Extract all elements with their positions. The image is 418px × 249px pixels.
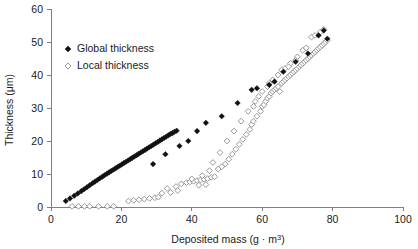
data-point-local [229,151,235,157]
y-tick-label: 30 [31,102,43,114]
data-point-local [224,138,230,144]
data-point-global [235,100,241,106]
data-point-local [243,132,249,138]
data-point-local [87,203,93,209]
scatter-plot: 0102030405060020406080100 Global thickne… [0,0,418,249]
data-point-local [96,203,102,209]
y-tick-label: 20 [31,135,43,147]
data-point-global [219,113,225,119]
x-tick-label: 20 [116,213,128,225]
y-axis-title: Thickness (μm) [3,74,15,146]
y-tick-label: 60 [31,3,43,15]
legend-label-global: Global thickness [77,42,154,54]
data-point-local [147,196,153,202]
data-point-global [163,151,169,157]
data-point-local [245,108,251,114]
x-tick-label: 60 [256,213,268,225]
data-point-local [231,128,237,134]
data-point-global [254,85,260,91]
data-point-global [177,143,183,149]
data-point-local [238,118,244,124]
data-point-global [185,138,191,144]
data-point-local [210,160,216,166]
x-tick-label: 80 [327,213,339,225]
data-point-local [254,113,260,119]
data-point-global [150,161,156,167]
legend: Global thicknessLocal thickness [65,42,154,71]
series-global-thickness-points [63,28,330,204]
data-point-global [194,128,200,134]
data-point-local [226,156,232,162]
y-tick-label: 50 [31,36,43,48]
data-point-local [104,203,110,209]
y-tick-label: 0 [37,201,43,213]
data-point-local [111,203,117,209]
x-tick-label: 100 [394,213,412,225]
data-point-local [207,168,213,174]
data-point-local [240,136,246,142]
data-point-global [203,120,209,126]
legend-marker-global [65,46,71,52]
data-point-local [69,203,75,209]
data-point-local [233,146,239,152]
data-point-local [236,141,242,147]
data-point-local [275,72,281,78]
data-point-local [256,94,262,100]
chart-container: 0102030405060020406080100 Global thickne… [0,0,418,249]
x-tick-label: 0 [48,213,54,225]
y-tick-label: 40 [31,69,43,81]
data-point-local [178,181,184,187]
legend-label-local: Local thickness [77,59,149,71]
data-point-local [259,89,265,95]
data-point-local [126,198,132,204]
data-point-global [249,87,255,93]
y-tick-label: 10 [31,168,43,180]
legend-marker-local [65,63,71,69]
x-axis-title: Deposited mass (g · m3) [171,233,284,245]
data-point-local [76,203,82,209]
data-point-local [136,197,142,203]
data-point-local [217,150,223,156]
data-point-local [131,198,137,204]
x-tick-label: 40 [186,213,198,225]
data-point-local [141,196,147,202]
